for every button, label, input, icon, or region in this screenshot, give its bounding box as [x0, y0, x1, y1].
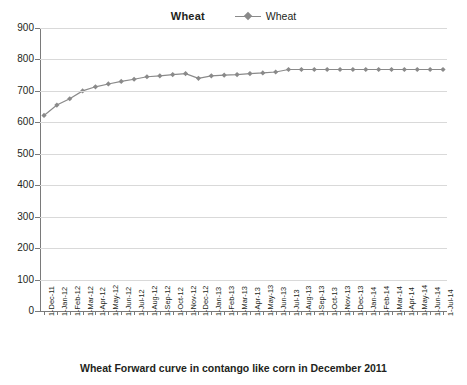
x-tick-mark	[417, 311, 418, 315]
x-tick-label: 1-Dec-11	[47, 286, 56, 316]
x-tick-mark	[95, 311, 96, 315]
x-tick-label: 1-Sep-13	[317, 286, 326, 316]
x-tick-mark	[198, 311, 199, 315]
x-tick-mark	[301, 311, 302, 315]
y-tick-mark	[35, 122, 40, 123]
x-tick-mark	[57, 311, 58, 315]
wheat-forward-curve-chart: Wheat Wheat 9008007006005004003002001000…	[0, 0, 467, 385]
y-tick-mark	[35, 311, 40, 312]
y-tick-label: 500	[4, 149, 34, 159]
data-point-marker	[234, 72, 239, 77]
x-tick-label: 1-Feb-13	[227, 286, 236, 316]
y-tick-mark	[35, 217, 40, 218]
x-tick-label: 1-Nov-12	[189, 286, 198, 316]
y-tick-mark	[35, 280, 40, 281]
chart-legend: Wheat	[235, 10, 296, 22]
gridline	[40, 91, 447, 92]
x-tick-mark	[211, 311, 212, 315]
data-point-marker	[440, 67, 445, 72]
x-tick-label: 1-Apr-14	[407, 287, 416, 316]
y-tick-label: 0	[4, 306, 34, 316]
x-tick-label: 1-Feb-12	[73, 286, 82, 316]
data-point-marker	[209, 73, 214, 78]
x-tick-mark	[237, 311, 238, 315]
x-tick-mark	[147, 311, 148, 315]
x-tick-mark	[430, 311, 431, 315]
gridline	[40, 185, 447, 186]
x-tick-mark	[404, 311, 405, 315]
y-tick-mark	[35, 154, 40, 155]
y-tick-label: 900	[4, 23, 34, 33]
series-line	[44, 70, 443, 116]
x-tick-mark	[379, 311, 380, 315]
y-tick-mark	[35, 28, 40, 29]
x-tick-label: 1-Jan-12	[60, 287, 69, 316]
data-point-marker	[119, 79, 124, 84]
y-tick-label: 800	[4, 54, 34, 64]
x-tick-mark	[250, 311, 251, 315]
y-tick-mark	[35, 91, 40, 92]
gridline	[40, 59, 447, 60]
data-point-marker	[157, 73, 162, 78]
x-tick-label: 1-Aug-12	[150, 286, 159, 316]
x-tick-label: 1-Jun-14	[433, 287, 442, 316]
gridline	[40, 154, 447, 155]
x-tick-mark	[392, 311, 393, 315]
y-tick-label: 100	[4, 275, 34, 285]
chart-header: Wheat Wheat	[0, 6, 467, 26]
x-tick-label: 1-Aug-13	[304, 286, 313, 316]
y-tick-mark	[35, 248, 40, 249]
gridline	[40, 217, 447, 218]
x-tick-label: 1-May-13	[266, 285, 275, 316]
data-point-marker	[260, 70, 265, 75]
x-tick-label: 1-Jun-12	[124, 287, 133, 316]
x-tick-mark	[289, 311, 290, 315]
x-tick-mark	[224, 311, 225, 315]
x-tick-label: 1-Sep-12	[163, 286, 172, 316]
x-tick-mark	[173, 311, 174, 315]
x-tick-label: 1-May-12	[111, 285, 120, 316]
y-tick-label: 200	[4, 243, 34, 253]
data-point-marker	[350, 67, 355, 72]
data-point-marker	[299, 67, 304, 72]
x-tick-mark	[366, 311, 367, 315]
data-point-marker	[131, 77, 136, 82]
legend-diamond-marker-icon	[235, 11, 261, 21]
x-tick-label: 1-Oct-13	[330, 287, 339, 316]
legend-item-label: Wheat	[266, 10, 296, 22]
data-point-marker	[106, 81, 111, 86]
data-point-marker	[376, 67, 381, 72]
x-tick-mark	[70, 311, 71, 315]
y-tick-mark	[35, 59, 40, 60]
data-point-marker	[286, 67, 291, 72]
data-point-marker	[389, 67, 394, 72]
x-tick-mark	[443, 311, 444, 315]
data-point-marker	[402, 67, 407, 72]
data-point-marker	[247, 71, 252, 76]
data-point-marker	[170, 72, 175, 77]
x-tick-label: 1-Nov-13	[343, 286, 352, 316]
x-tick-label: 1-Apr-13	[253, 287, 262, 316]
data-point-marker	[325, 67, 330, 72]
x-tick-label: 1-Mar-14	[395, 286, 404, 316]
x-tick-mark	[160, 311, 161, 315]
data-point-marker	[93, 84, 98, 89]
x-tick-mark	[121, 311, 122, 315]
y-tick-label: 400	[4, 180, 34, 190]
x-tick-label: 1-Jun-13	[279, 287, 288, 316]
wheat-series-line	[40, 28, 447, 311]
gridline	[40, 248, 447, 249]
x-tick-label: 1-Jul-14	[446, 289, 455, 316]
x-tick-mark	[108, 311, 109, 315]
x-axis-title: Wheat Forward curve in contango like cor…	[0, 362, 467, 374]
x-tick-mark	[44, 311, 45, 315]
data-point-marker	[144, 74, 149, 79]
data-point-marker	[337, 67, 342, 72]
data-point-marker	[312, 67, 317, 72]
x-tick-label: 1-Feb-14	[382, 286, 391, 316]
x-tick-mark	[353, 311, 354, 315]
data-point-marker	[222, 73, 227, 78]
x-tick-mark	[263, 311, 264, 315]
data-point-marker	[183, 71, 188, 76]
x-tick-label: 1-Apr-12	[98, 287, 107, 316]
